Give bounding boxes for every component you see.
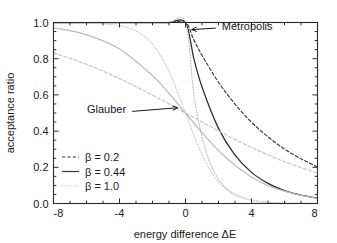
legend-label-0: β = 0.2 <box>85 151 119 163</box>
x-tick-label: 4 <box>248 207 254 219</box>
acceptance-ratio-chart: -8-4048 0.00.20.40.60.81.0 energy differ… <box>0 0 337 243</box>
legend-label-2: β = 1.0 <box>85 180 119 192</box>
y-tick-label: 1.0 <box>33 17 48 29</box>
x-tick-label: -4 <box>115 207 125 219</box>
x-tick-label: 0 <box>182 207 188 219</box>
x-tick-label: 8 <box>311 207 317 219</box>
y-tick-label: 0.4 <box>33 125 48 137</box>
y-axis-title: acceptance ratio <box>4 73 16 154</box>
annotation-label-metropolis: Metropolis <box>222 20 273 32</box>
y-tick-label: 0.6 <box>33 89 48 101</box>
y-tick-label: 0.8 <box>33 53 48 65</box>
y-tick-label: 0.2 <box>33 161 48 173</box>
legend-label-1: β = 0.44 <box>85 166 125 178</box>
x-tick-label: -8 <box>54 207 64 219</box>
chart-figure: -8-4048 0.00.20.40.60.81.0 energy differ… <box>0 0 337 243</box>
y-tick-label: 0.0 <box>33 198 48 210</box>
x-axis-title: energy difference ΔE <box>134 228 237 240</box>
annotation-label-glauber: Glauber <box>87 103 126 115</box>
chart-background <box>0 0 337 243</box>
